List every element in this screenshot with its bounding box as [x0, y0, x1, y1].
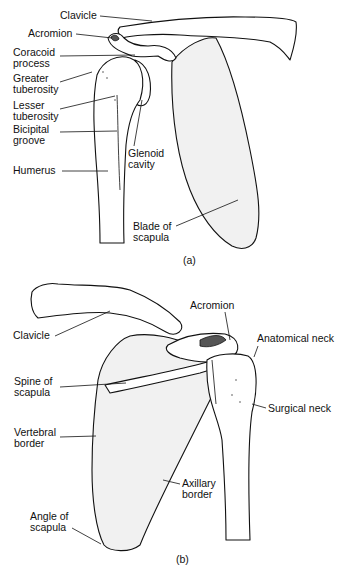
svg-text:border: border: [14, 437, 45, 449]
label-acromion-a: Acromion: [28, 27, 112, 39]
svg-text:scapula: scapula: [14, 386, 50, 398]
clavicle-b: [31, 283, 182, 334]
scapula-blade-a: [172, 38, 259, 249]
svg-text:Acromion: Acromion: [190, 299, 235, 311]
svg-text:tuberosity: tuberosity: [13, 110, 59, 122]
caption-panel-b: (b): [176, 553, 189, 565]
svg-text:Anatomical neck: Anatomical neck: [257, 332, 335, 344]
svg-text:process: process: [13, 57, 50, 69]
label-axillary-border-b: Axillary border: [163, 477, 217, 500]
label-surgical-neck-b: Surgical neck: [252, 402, 332, 414]
label-clavicle-a: Clavicle: [60, 9, 152, 21]
svg-text:scapula: scapula: [30, 521, 66, 533]
label-vertebral-border-b: Vertebral border: [14, 426, 96, 449]
svg-text:Clavicle: Clavicle: [13, 329, 50, 341]
label-humerus-a: Humerus: [13, 164, 108, 176]
svg-text:border: border: [182, 488, 213, 500]
label-anatomical-neck-b: Anatomical neck: [254, 332, 335, 357]
svg-text:groove: groove: [13, 134, 45, 146]
svg-text:Humerus: Humerus: [13, 164, 56, 176]
svg-text:tuberosity: tuberosity: [13, 83, 59, 95]
svg-text:Clavicle: Clavicle: [60, 9, 97, 21]
label-greater-tuberosity-a: Greater tuberosity: [13, 72, 92, 95]
svg-text:Surgical neck: Surgical neck: [268, 402, 332, 414]
svg-text:Acromion: Acromion: [28, 27, 73, 39]
svg-text:scapula: scapula: [133, 231, 169, 243]
panel-a-illustration: [94, 17, 297, 249]
shoulder-anatomy-figure: Clavicle Acromion Coracoid process Great…: [0, 0, 343, 574]
svg-text:cavity: cavity: [128, 158, 156, 170]
caption-panel-a: (a): [183, 254, 196, 266]
label-angle-of-scapula-b: Angle of scapula: [30, 510, 101, 544]
